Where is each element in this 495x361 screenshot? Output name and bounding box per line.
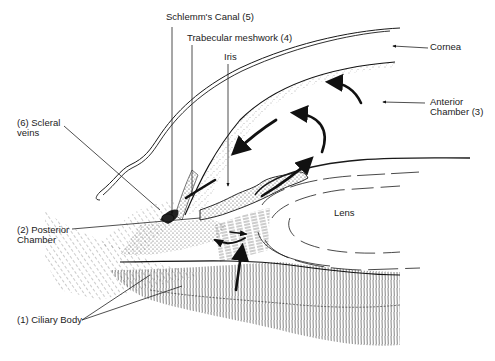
label-iris: Iris bbox=[224, 52, 237, 63]
leader-scleral-veins bbox=[64, 126, 160, 210]
label-trabecular-meshwork: Trabecular meshwork (4) bbox=[187, 33, 292, 44]
label-scleral-veins-2: veins bbox=[17, 128, 39, 139]
label-cornea: Cornea bbox=[430, 42, 461, 53]
zonules bbox=[215, 208, 270, 262]
leader-cornea bbox=[393, 46, 428, 48]
label-schlemms-canal: Schlemm's Canal (5) bbox=[166, 12, 254, 23]
label-posterior-chamber-2: Chamber bbox=[17, 235, 56, 246]
anterior-chamber-stipple bbox=[185, 62, 395, 215]
lens bbox=[255, 158, 470, 270]
label-ciliary-body: (1) Ciliary Body bbox=[17, 315, 82, 326]
eye-anatomy-diagram: Schlemm's Canal (5) Trabecular meshwork … bbox=[0, 0, 495, 361]
arrow-upper-circ bbox=[330, 82, 361, 103]
label-anterior-chamber-2: Chamber (3) bbox=[430, 107, 483, 118]
ciliary-body bbox=[110, 261, 400, 346]
leader-anterior-chamber bbox=[383, 102, 425, 103]
arrow-chamber-curl bbox=[295, 113, 325, 152]
label-lens: Lens bbox=[334, 208, 355, 219]
diagram-canvas bbox=[0, 0, 495, 361]
